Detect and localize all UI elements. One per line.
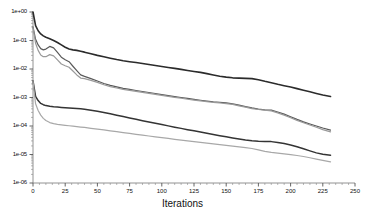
- chart-container: 1e+001e-011e-021e-031e-041e-051e-06 0255…: [0, 0, 365, 218]
- series-line-curve-4-dark-lower: [33, 81, 331, 155]
- series-line-curve-3-light-gray: [33, 27, 331, 132]
- y-tick-label: 1e-04: [0, 122, 27, 128]
- x-tick-label: 75: [116, 188, 144, 194]
- x-tick-label: 200: [277, 188, 305, 194]
- series-line-curve-2-mid-gray: [33, 27, 331, 130]
- x-tick-label: 125: [180, 188, 208, 194]
- y-tick-label: 1e-01: [0, 37, 27, 43]
- y-tick-label: 1e-06: [0, 179, 27, 185]
- y-tick-label: 1e+00: [0, 8, 27, 14]
- y-tick-label: 1e-03: [0, 94, 27, 100]
- x-axis-title: Iterations: [0, 198, 365, 209]
- series-layer: [33, 12, 331, 162]
- y-tick-label: 1e-02: [0, 65, 27, 71]
- x-tick-label: 25: [51, 188, 79, 194]
- x-tick-label: 175: [244, 188, 272, 194]
- y-tick-label: 1e-05: [0, 151, 27, 157]
- x-tick-label: 150: [212, 188, 240, 194]
- x-tick-label: 100: [148, 188, 176, 194]
- x-tick-label: 50: [83, 188, 111, 194]
- series-line-curve-5-lightest-lower: [33, 81, 331, 162]
- line-chart-plot: [0, 0, 365, 218]
- x-tick-label: 0: [19, 188, 47, 194]
- x-tick-label: 250: [341, 188, 365, 194]
- x-tick-label: 225: [309, 188, 337, 194]
- series-line-curve-1-dark-upper: [33, 12, 331, 97]
